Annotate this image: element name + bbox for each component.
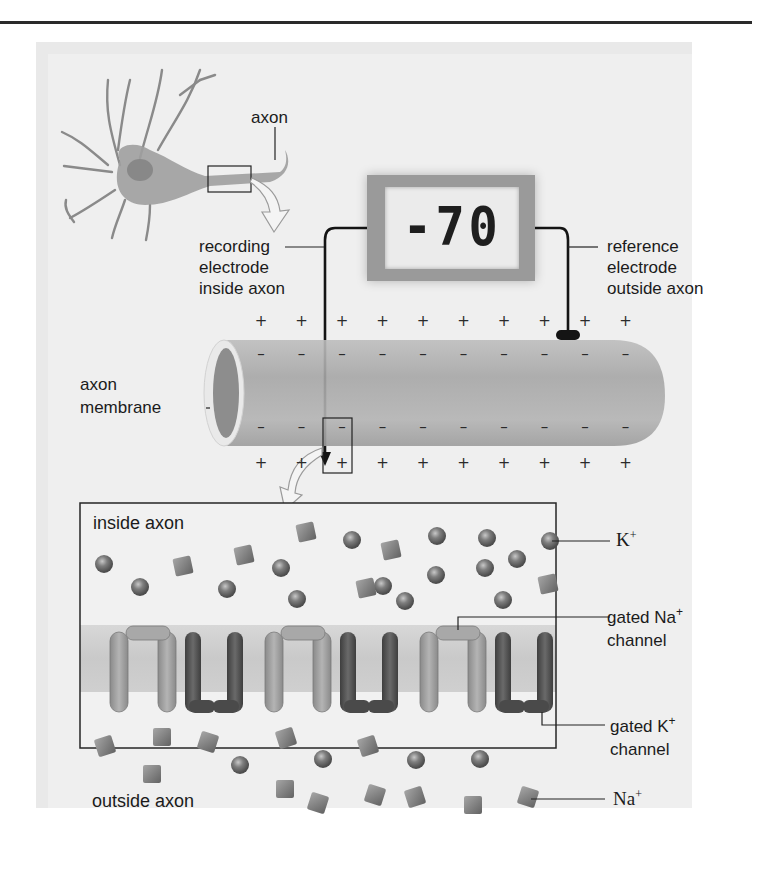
svg-text:+: + xyxy=(538,312,551,330)
k-channel-legend-2: channel xyxy=(610,739,670,760)
svg-text:+: + xyxy=(579,454,592,472)
reference-electrode-label-1: reference xyxy=(607,236,679,257)
svg-text:–: – xyxy=(581,418,589,436)
svg-text:+: + xyxy=(457,454,470,472)
svg-text:–: – xyxy=(541,345,549,363)
svg-text:–: – xyxy=(460,345,468,363)
na-ion-text: Na xyxy=(613,788,635,809)
axon-membrane-label-2: membrane xyxy=(80,397,161,418)
na-channel-legend-1: gated Na+ xyxy=(607,607,683,628)
svg-text:–: – xyxy=(379,418,387,436)
recording-electrode-label-2: electrode xyxy=(199,257,269,278)
k-ion-legend: K+ xyxy=(616,529,637,550)
svg-text:–: – xyxy=(581,345,589,363)
axon-tube xyxy=(204,340,665,446)
recording-electrode-label-3: inside axon xyxy=(199,278,285,299)
svg-text:+: + xyxy=(417,312,430,330)
na-ion-legend: Na+ xyxy=(613,788,642,809)
na-channel-text: gated Na xyxy=(607,608,676,627)
svg-text:+: + xyxy=(417,454,430,472)
svg-text:–: – xyxy=(338,345,346,363)
k-ion-sup: + xyxy=(630,528,637,542)
svg-text:–: – xyxy=(541,418,549,436)
svg-text:–: – xyxy=(419,345,427,363)
k-channel-legend-1: gated K+ xyxy=(610,716,676,737)
svg-text:+: + xyxy=(619,454,632,472)
inside-axon-label: inside axon xyxy=(93,513,184,534)
svg-text:+: + xyxy=(295,454,308,472)
recording-electrode-label-1: recording xyxy=(199,236,270,257)
svg-text:–: – xyxy=(298,418,306,436)
svg-text:+: + xyxy=(295,312,308,330)
svg-text:–: – xyxy=(460,418,468,436)
voltmeter-screen: -70 xyxy=(385,187,519,269)
na-channel-sup: + xyxy=(676,605,683,619)
svg-text:–: – xyxy=(338,418,346,436)
na-ion-sup: + xyxy=(635,787,642,801)
outside-axon-label: outside axon xyxy=(92,791,194,812)
k-channel-text: gated K xyxy=(610,717,669,736)
reference-electrode-label-3: outside axon xyxy=(607,278,703,299)
svg-text:+: + xyxy=(619,312,632,330)
svg-text:–: – xyxy=(622,345,630,363)
svg-text:+: + xyxy=(579,312,592,330)
svg-text:–: – xyxy=(379,345,387,363)
svg-text:+: + xyxy=(336,312,349,330)
zoom-arrow-icon xyxy=(250,178,289,232)
k-ion-text: K xyxy=(616,529,630,550)
svg-text:–: – xyxy=(622,418,630,436)
svg-text:+: + xyxy=(538,454,551,472)
svg-text:–: – xyxy=(500,345,508,363)
axon-membrane-label-1: axon xyxy=(80,374,117,395)
svg-text:+: + xyxy=(376,454,389,472)
svg-text:+: + xyxy=(255,454,268,472)
svg-text:+: + xyxy=(255,312,268,330)
svg-text:–: – xyxy=(419,418,427,436)
svg-text:–: – xyxy=(257,418,265,436)
svg-text:–: – xyxy=(500,418,508,436)
svg-text:+: + xyxy=(336,454,349,472)
axon-label: axon xyxy=(251,107,288,128)
nucleus xyxy=(127,159,153,181)
svg-text:–: – xyxy=(257,345,265,363)
reference-electrode-label-2: electrode xyxy=(607,257,677,278)
svg-text:+: + xyxy=(457,312,470,330)
svg-text:–: – xyxy=(298,345,306,363)
na-channel-legend-2: channel xyxy=(607,630,667,651)
voltmeter: -70 xyxy=(367,175,535,281)
voltmeter-reading: -70 xyxy=(392,195,513,258)
k-channel-sup: + xyxy=(669,714,676,728)
reference-electrode-tip xyxy=(556,330,580,340)
svg-text:+: + xyxy=(376,312,389,330)
svg-text:+: + xyxy=(498,454,511,472)
svg-text:+: + xyxy=(498,312,511,330)
